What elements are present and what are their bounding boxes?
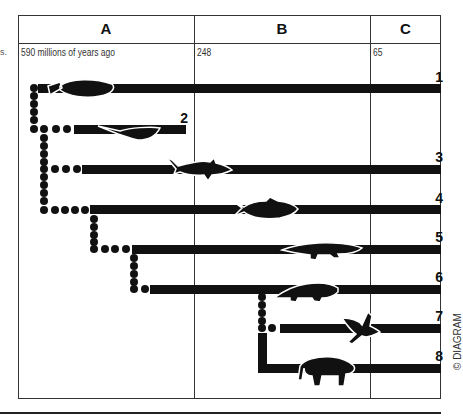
mammal-icon [298,357,355,386]
row-number-8: 8 [423,348,443,364]
row-number-6: 6 [423,269,443,285]
row-number-2: 2 [168,110,188,126]
shark-icon [166,157,232,181]
row-number-3: 3 [423,149,443,165]
row-number-1: 1 [423,69,443,85]
jawless-fish-icon [48,80,114,97]
dot-stem-2 [40,134,89,214]
dot-stem-3 [90,215,130,253]
row-number-7: 7 [423,308,443,324]
dot-stem-5 [258,293,276,332]
row-number-4: 4 [423,190,443,206]
dot-stem-1 [30,84,38,133]
dot-branch-2 [40,125,71,133]
bony-fish-icon [234,197,298,219]
row-number-5: 5 [423,229,443,245]
copyright-notice: © DIAGRAM [452,313,463,370]
lineage-bar-3 [82,165,441,174]
bottom-rule [0,412,441,414]
dot-stem-4 [130,254,149,293]
